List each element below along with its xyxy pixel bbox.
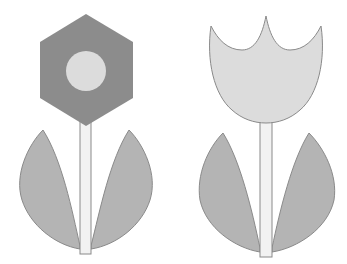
stem <box>260 118 272 257</box>
left-leaf-right <box>91 130 152 249</box>
flowers-diagram <box>0 0 347 264</box>
right-leaf-right <box>272 133 335 252</box>
hexagon-flower <box>20 14 153 254</box>
tulip-flower <box>199 16 334 257</box>
right-leaf-left <box>199 133 260 252</box>
tulip-petal <box>210 16 323 123</box>
stem <box>80 120 91 254</box>
flower-center-circle <box>66 51 106 91</box>
left-leaf-left <box>20 130 80 249</box>
